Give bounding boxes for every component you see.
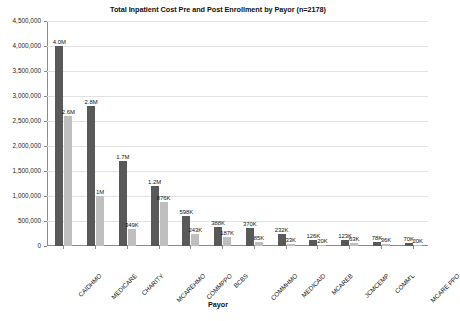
bar[interactable] — [287, 244, 295, 246]
x-tick-label: MCARE PPO — [429, 272, 460, 304]
bar-group[interactable]: 4.0M2.6M — [55, 21, 72, 246]
bar-value-label: 1.7M — [112, 154, 134, 160]
gridline — [47, 21, 428, 22]
gridline — [47, 71, 428, 72]
x-tick-mark — [349, 246, 350, 249]
bar[interactable] — [87, 106, 95, 246]
bar-value-label: 33K — [280, 237, 302, 243]
bar-value-label: 349K — [121, 222, 143, 228]
y-tick-label: 2,000,000 — [3, 142, 41, 149]
x-tick-mark — [381, 246, 382, 249]
bar[interactable] — [318, 245, 326, 246]
y-tick-label: 1,000,000 — [3, 192, 41, 199]
x-tick-label: COMM'L — [393, 272, 415, 294]
y-tick-mark — [44, 71, 47, 72]
bar-value-label: 598K — [175, 209, 197, 215]
y-tick-label: 0 — [3, 242, 41, 249]
bar-group[interactable]: 78K36K — [373, 21, 390, 246]
gridline — [47, 121, 428, 122]
y-tick-label: 4,000,000 — [3, 42, 41, 49]
bar-value-label: 2.8M — [80, 99, 102, 105]
x-tick-mark — [95, 246, 96, 249]
y-tick-mark — [44, 196, 47, 197]
bar[interactable] — [119, 161, 127, 246]
y-tick-label: 4,500,000 — [3, 17, 41, 24]
bar-value-label: 4.0M — [48, 39, 70, 45]
x-tick-label: MCAREB — [330, 272, 354, 296]
x-tick-mark — [63, 246, 64, 249]
y-tick-mark — [44, 21, 47, 22]
bar-value-label: 876K — [153, 195, 175, 201]
x-tick-mark — [159, 246, 160, 249]
x-tick-label: CHARITY — [140, 272, 164, 296]
bar-value-label: 388K — [207, 220, 229, 226]
bar-value-label: 1M — [89, 189, 111, 195]
x-tick-mark — [254, 246, 255, 249]
bar-group[interactable]: 598K243K — [182, 21, 199, 246]
bar[interactable] — [160, 202, 168, 246]
x-tick-mark — [222, 246, 223, 249]
x-tick-mark — [127, 246, 128, 249]
bar-value-label: 36K — [375, 237, 397, 243]
x-tick-mark — [317, 246, 318, 249]
gridline — [47, 221, 428, 222]
bar-group[interactable]: 2.8M1M — [87, 21, 104, 246]
bar-value-label: 1.2M — [144, 179, 166, 185]
bar-group[interactable]: 232K33K — [278, 21, 295, 246]
bar-group[interactable]: 370K85K — [246, 21, 263, 246]
y-tick-mark — [44, 46, 47, 47]
bar-value-label: 187K — [216, 230, 238, 236]
y-tick-mark — [44, 246, 47, 247]
plot-area: 4,500,0004,000,0003,500,0003,000,0002,50… — [47, 21, 428, 246]
bar-group[interactable]: 1.7M349K — [119, 21, 136, 246]
gridline — [47, 96, 428, 97]
bar-value-label: 232K — [271, 227, 293, 233]
x-tick-label: MEDICAID — [300, 272, 327, 299]
bar[interactable] — [382, 244, 390, 246]
x-tick-mark — [413, 246, 414, 249]
x-axis-line — [47, 245, 428, 246]
bar-group[interactable]: 123K63K — [341, 21, 358, 246]
bar-value-label: 370K — [239, 221, 261, 227]
bar-group[interactable]: 1.2M876K — [151, 21, 168, 246]
y-tick-label: 3,500,000 — [3, 67, 41, 74]
gridline — [47, 46, 428, 47]
bar-group[interactable]: 388K187K — [214, 21, 231, 246]
bar-value-label: 2.6M — [57, 109, 79, 115]
x-axis-title: Payor — [0, 300, 436, 309]
x-tick-label: COMMPPO — [205, 272, 233, 300]
bar-value-label: 243K — [184, 227, 206, 233]
y-tick-label: 3,000,000 — [3, 92, 41, 99]
bar[interactable] — [255, 242, 263, 246]
bar[interactable] — [223, 237, 231, 246]
gridline — [47, 171, 428, 172]
y-tick-mark — [44, 146, 47, 147]
y-axis-line — [47, 21, 48, 246]
y-tick-label: 1,500,000 — [3, 167, 41, 174]
gridline — [47, 196, 428, 197]
bar-value-label: 85K — [248, 235, 270, 241]
y-tick-mark — [44, 96, 47, 97]
y-tick-mark — [44, 221, 47, 222]
y-tick-mark — [44, 121, 47, 122]
x-tick-label: JCMCEMP — [363, 272, 390, 299]
bar-value-label: 20K — [407, 238, 429, 244]
x-tick-label: MCAREHMO — [175, 272, 206, 303]
bar[interactable] — [128, 229, 136, 246]
x-tick-mark — [190, 246, 191, 249]
x-tick-label: CAIDHMO — [77, 272, 103, 298]
y-tick-label: 2,500,000 — [3, 117, 41, 124]
bar[interactable] — [96, 196, 104, 246]
x-tick-mark — [286, 246, 287, 249]
bar[interactable] — [64, 116, 72, 246]
bar[interactable] — [350, 243, 358, 246]
bar-group[interactable]: 126K20K — [309, 21, 326, 246]
x-tick-label: MEDICARE — [110, 272, 138, 300]
bar-group[interactable]: 70K20K — [405, 21, 422, 246]
bar[interactable] — [55, 46, 63, 246]
y-tick-mark — [44, 171, 47, 172]
x-tick-label: BCBS — [232, 272, 249, 289]
bar[interactable] — [414, 245, 422, 246]
bar[interactable] — [191, 234, 199, 246]
